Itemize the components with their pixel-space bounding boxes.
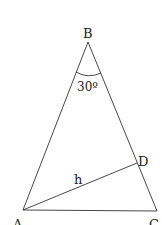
angle-label-b: 30º <box>77 80 98 94</box>
vertex-label-d: D <box>138 154 148 169</box>
side-bc <box>88 42 157 211</box>
vertex-label-a: A <box>12 217 23 225</box>
angle-arc-b <box>76 72 101 76</box>
triangle-diagram: B 30º D h A C <box>0 0 162 225</box>
side-ac <box>23 210 157 211</box>
vertex-label-b: B <box>83 26 93 41</box>
segment-label-h: h <box>74 172 83 187</box>
vertex-label-c: C <box>149 217 159 225</box>
